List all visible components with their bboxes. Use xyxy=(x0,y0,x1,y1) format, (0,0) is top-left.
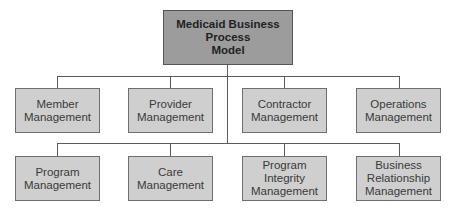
node-label: Contractor Management xyxy=(251,98,318,124)
node-label: Provider Management xyxy=(137,98,204,124)
root-node-medicaid-business-process-model: Medicaid Business Process Model xyxy=(163,10,293,65)
node-label: Program Integrity Management xyxy=(251,159,318,198)
row1-drop-connector-3 xyxy=(284,76,285,88)
node-label: Program Management xyxy=(24,166,91,192)
node-label: Operations Management xyxy=(365,98,432,124)
row2-drop-connector-3 xyxy=(284,143,285,156)
node-provider-management: Provider Management xyxy=(128,88,213,133)
node-program-management: Program Management xyxy=(15,156,100,201)
node-program-integrity-management: Program Integrity Management xyxy=(242,156,327,201)
node-label: Care Management xyxy=(137,166,204,192)
node-contractor-management: Contractor Management xyxy=(242,88,327,133)
node-member-management: Member Management xyxy=(15,88,100,133)
row1-horizontal-connector xyxy=(57,76,400,77)
node-operations-management: Operations Management xyxy=(356,88,441,133)
org-chart-diagram: Medicaid Business Process Model Member M… xyxy=(0,0,454,212)
row1-drop-connector-1 xyxy=(57,76,58,88)
root-node-label: Medicaid Business Process Model xyxy=(176,18,280,57)
row2-drop-connector-4 xyxy=(399,143,400,156)
row1-drop-connector-2 xyxy=(170,76,171,88)
row2-drop-connector-2 xyxy=(170,143,171,156)
node-label: Member Management xyxy=(24,98,91,124)
node-business-relationship-management: Business Relationship Management xyxy=(356,156,441,201)
node-care-management: Care Management xyxy=(128,156,213,201)
node-label: Business Relationship Management xyxy=(365,159,432,198)
row2-horizontal-connector xyxy=(57,143,400,144)
row2-drop-connector-1 xyxy=(57,143,58,156)
row1-drop-connector-4 xyxy=(399,76,400,88)
